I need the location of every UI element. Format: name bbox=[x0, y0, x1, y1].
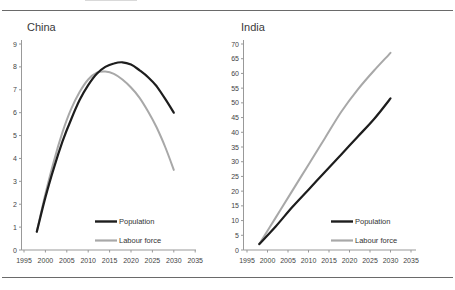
y-tick-label-india: 70 bbox=[231, 41, 239, 48]
bottom-rule bbox=[2, 277, 453, 278]
y-tick-label-china: 6 bbox=[13, 109, 17, 116]
x-tick-label-india: 2020 bbox=[342, 257, 358, 264]
x-tick-label-china: 2020 bbox=[123, 257, 139, 264]
series-line-labour-force-china bbox=[37, 71, 174, 231]
y-tick-label-india: 35 bbox=[231, 144, 239, 151]
y-tick-label-china: 0 bbox=[13, 247, 17, 254]
y-tick-label-india: 60 bbox=[231, 70, 239, 77]
y-tick-label-india: 0 bbox=[235, 247, 239, 254]
page-edge-artifact bbox=[85, 0, 137, 1]
y-tick-label-india: 65 bbox=[231, 55, 239, 62]
series-line-labour-force-india bbox=[259, 53, 390, 244]
x-tick-label-india: 2025 bbox=[362, 257, 378, 264]
y-tick-label-china: 8 bbox=[13, 63, 17, 70]
x-tick-label-china: 2005 bbox=[59, 257, 75, 264]
y-tick-label-india: 30 bbox=[231, 158, 239, 165]
x-tick-label-china: 2010 bbox=[80, 257, 96, 264]
y-tick-label-india: 5 bbox=[235, 232, 239, 239]
chart-panel-china: China01234567891995200020052010201520202… bbox=[13, 21, 203, 264]
top-rule bbox=[2, 10, 453, 11]
figure: China01234567891995200020052010201520202… bbox=[0, 0, 455, 290]
x-tick-label-china: 2015 bbox=[102, 257, 118, 264]
y-tick-label-china: 4 bbox=[13, 155, 17, 162]
x-tick-label-india: 2030 bbox=[383, 257, 399, 264]
x-tick-label-china: 2000 bbox=[38, 257, 54, 264]
x-tick-label-india: 2005 bbox=[280, 257, 296, 264]
population-labour-charts: China01234567891995200020052010201520202… bbox=[0, 0, 455, 290]
y-tick-label-india: 55 bbox=[231, 85, 239, 92]
legend-label-labour-force-india: Labour force bbox=[355, 236, 397, 245]
x-tick-label-china: 2035 bbox=[187, 257, 203, 264]
y-tick-label-india: 40 bbox=[231, 129, 239, 136]
y-tick-label-china: 7 bbox=[13, 86, 17, 93]
y-tick-label-india: 15 bbox=[231, 202, 239, 209]
y-tick-label-china: 5 bbox=[13, 132, 17, 139]
y-tick-label-china: 1 bbox=[13, 224, 17, 231]
y-tick-label-india: 10 bbox=[231, 217, 239, 224]
chart-panel-india: India05101520253035404550556065701995200… bbox=[231, 21, 419, 264]
x-tick-label-china: 2030 bbox=[166, 257, 182, 264]
chart-title-india: India bbox=[241, 21, 266, 33]
x-tick-label-china: 1995 bbox=[16, 257, 32, 264]
y-tick-label-india: 25 bbox=[231, 173, 239, 180]
y-tick-label-china: 9 bbox=[13, 41, 17, 48]
x-tick-label-india: 2010 bbox=[301, 257, 317, 264]
x-tick-label-india: 2035 bbox=[403, 257, 419, 264]
y-tick-label-india: 50 bbox=[231, 99, 239, 106]
chart-title-china: China bbox=[27, 21, 57, 33]
x-tick-label-india: 2015 bbox=[321, 257, 337, 264]
legend-label-population-china: Population bbox=[119, 217, 154, 226]
y-tick-label-india: 45 bbox=[231, 114, 239, 121]
x-tick-label-india: 1995 bbox=[239, 257, 255, 264]
y-tick-label-china: 2 bbox=[13, 201, 17, 208]
legend-label-labour-force-china: Labour force bbox=[119, 236, 161, 245]
y-tick-label-india: 20 bbox=[231, 188, 239, 195]
legend-label-population-india: Population bbox=[355, 217, 390, 226]
y-tick-label-china: 3 bbox=[13, 178, 17, 185]
x-tick-label-china: 2025 bbox=[145, 257, 161, 264]
x-tick-label-india: 2000 bbox=[260, 257, 276, 264]
